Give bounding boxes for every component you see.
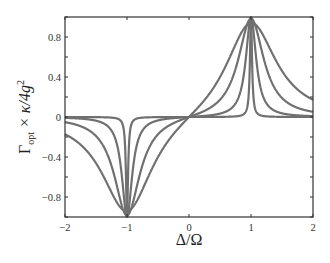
x-tick-label: 2 — [310, 222, 315, 233]
x-tick-label: −1 — [121, 222, 132, 233]
chart: −2−10120.80.40−0.4−0.8 Δ/Ω Γopt × κ/4g2 — [0, 0, 330, 263]
y-tick-label: −0.4 — [42, 152, 62, 163]
axis-ticks: −2−10120.80.40−0.4−0.8 — [42, 17, 316, 233]
x-tick-label: −2 — [59, 222, 70, 233]
y-tick-label: 0.8 — [48, 32, 61, 43]
data-curves — [65, 17, 313, 217]
svg-text:Γopt × κ/4g2: Γopt × κ/4g2 — [15, 80, 36, 154]
y-axis-label: Γopt × κ/4g2 — [15, 80, 36, 154]
x-tick-label: 1 — [248, 222, 253, 233]
y-tick-label: 0 — [56, 112, 61, 123]
x-axis-label: Δ/Ω — [176, 231, 203, 248]
y-tick-label: 0.4 — [48, 72, 62, 83]
y-tick-label: −0.8 — [42, 192, 61, 203]
